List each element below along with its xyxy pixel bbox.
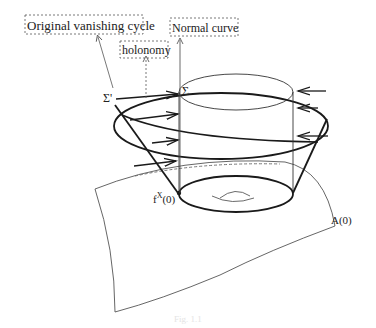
fx0-label: fX(0) [153, 191, 176, 206]
point-fx0 [177, 191, 181, 195]
surface-a0 [95, 161, 335, 312]
vanishing-cycle-curve-2 [220, 191, 250, 198]
cylinder-top-ellipse [179, 74, 293, 110]
holonomy-label: holonomy [122, 43, 171, 57]
arrow-left-2 [130, 114, 178, 120]
cone-middle-arc [122, 115, 318, 142]
cone-bottom-ellipse [179, 176, 293, 212]
vanishing-cycle-diagram: Original vanishing cycle holonomy Normal… [0, 0, 376, 328]
cone-top-ellipse [114, 93, 328, 159]
a0-label: A(0) [331, 214, 352, 227]
original-cycle-pointer [98, 37, 113, 88]
figure-caption: Fig. 1.1 [174, 314, 202, 324]
normal-curve-label: Normal curve [172, 21, 238, 35]
vanishing-cycle-curve [212, 196, 254, 202]
original-vanishing-cycle-label: Original vanishing cycle [27, 18, 155, 33]
sigma-prime-label: Σ' [103, 91, 112, 105]
sigma-label: Σ [182, 84, 189, 98]
arrow-left-3 [152, 140, 178, 143]
cone-right-side [293, 119, 327, 193]
